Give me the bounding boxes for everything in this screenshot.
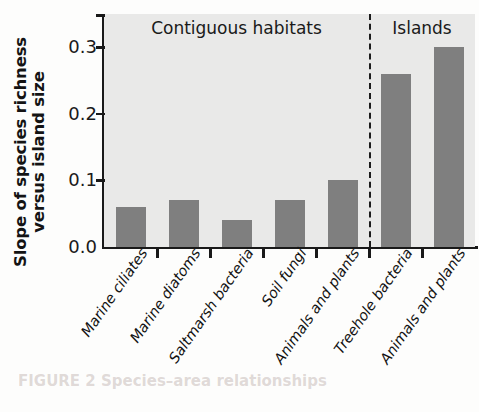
y-tick-mark-2 [96,113,105,116]
bar-4 [328,180,358,247]
plot-area: Contiguous habitatsIslands [104,14,475,247]
figure-bar-chart: Slope of species richness versus island … [0,0,479,412]
bar-3 [275,200,305,247]
y-tick-label-2: 0.2 [53,105,97,123]
y-axis-top-cap [96,14,105,17]
bar-5 [381,74,411,247]
x-axis-category-labels: Marine ciliatesMarine diatomsSaltmarsh b… [0,250,479,412]
bar-6 [434,47,464,247]
x-category-label-3: Soil fungi [258,245,309,309]
group-label-1: Islands [392,18,451,38]
group-divider [369,14,371,247]
y-tick-mark-3 [96,46,105,49]
y-tick-mark-1 [96,179,105,182]
bar-1 [169,200,199,247]
y-axis-title-line-2: versus island size [30,71,48,232]
group-label-0: Contiguous habitats [151,18,322,38]
bar-2 [222,220,252,247]
y-tick-label-3: 0.3 [53,38,97,56]
y-axis-title: Slope of species richness versus island … [6,27,54,277]
y-axis-title-line-1: Slope of species richness [12,37,30,267]
y-tick-label-1: 0.1 [53,171,97,189]
bar-0 [116,207,146,247]
